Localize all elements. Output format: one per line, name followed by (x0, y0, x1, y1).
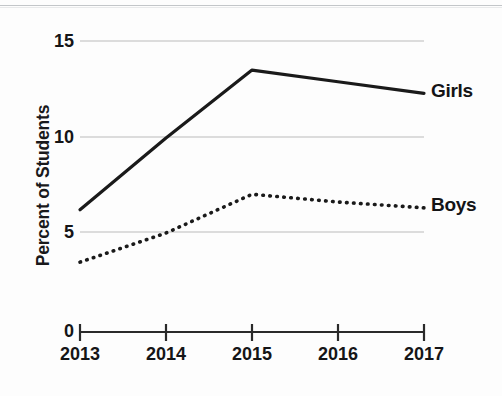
series-label-boys: Boys (431, 194, 476, 216)
x-tick-2017: 2017 (404, 344, 444, 365)
series-label-girls: Girls (431, 80, 473, 102)
x-tick-2014: 2014 (146, 344, 186, 365)
series-line-girls (80, 70, 424, 210)
series-line-boys (80, 194, 424, 262)
x-tick-2016: 2016 (318, 344, 358, 365)
x-axis (80, 324, 424, 341)
chart-figure: Percent of Students 15 10 5 0 2013 20 (0, 0, 502, 396)
x-axis-tick-labels: 2013 2014 2015 2016 2017 (0, 344, 502, 374)
plot-area (0, 0, 502, 396)
x-tick-2013: 2013 (60, 344, 100, 365)
x-tick-2015: 2015 (232, 344, 272, 365)
